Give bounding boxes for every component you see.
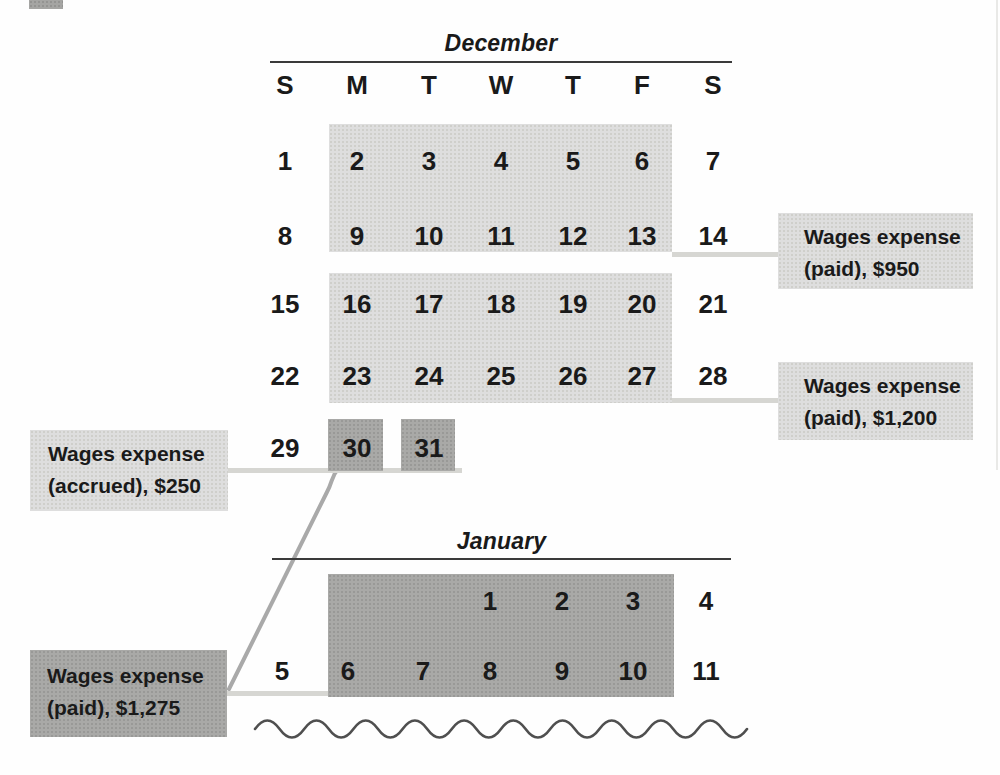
annotation-wages-paid-1275: Wages expense (paid), $1,275 [30,650,227,737]
december-day-3: 3 [393,145,465,177]
december-weekday-header-5: F [606,69,678,101]
january-day-9: 9 [526,655,598,687]
december-day-30: 30 [321,432,393,464]
december-day-29: 29 [249,432,321,464]
december-day-7: 7 [677,145,749,177]
wages-expense-calendar-figure: December SMTWTFS 12345678910111213141516… [0,0,1000,775]
december-day-5: 5 [537,145,609,177]
december-weekday-header-2: T [393,69,465,101]
december-day-6: 6 [606,145,678,177]
cropped-top-artifact [29,0,63,9]
december-day-23: 23 [321,360,393,392]
december-day-13: 13 [606,220,678,252]
december-day-15: 15 [249,288,321,320]
december-day-16: 16 [321,288,393,320]
december-day-25: 25 [465,360,537,392]
december-day-24: 24 [393,360,465,392]
december-weekday-header-1: M [321,69,393,101]
december-day-14: 14 [677,220,749,252]
december-day-4: 4 [465,145,537,177]
january-day-7: 7 [387,655,459,687]
december-day-27: 27 [606,360,678,392]
january-day-2: 2 [526,585,598,617]
january-day-1: 1 [454,585,526,617]
annotation-line: Wages expense [48,438,228,470]
connector-line-1200 [672,398,778,403]
annotation-line: Wages expense [47,660,227,692]
january-day-11: 11 [670,655,742,687]
january-day-4: 4 [670,585,742,617]
annotation-wages-accrued-250: Wages expense (accrued), $250 [30,430,228,511]
december-day-22: 22 [249,360,321,392]
december-title: December [270,30,732,57]
january-title-rule [272,558,731,560]
december-weekday-header-3: W [465,69,537,101]
annotation-line: (accrued), $250 [48,470,228,502]
december-day-12: 12 [537,220,609,252]
annotation-line: (paid), $1,200 [804,402,973,434]
wavy-continuation-line [253,714,750,744]
december-day-26: 26 [537,360,609,392]
annotation-wages-paid-1200: Wages expense (paid), $1,200 [778,362,973,440]
page-edge-line [996,0,998,470]
annotation-line: Wages expense [804,370,973,402]
december-day-17: 17 [393,288,465,320]
december-day-20: 20 [606,288,678,320]
december-day-18: 18 [465,288,537,320]
january-day-6: 6 [312,655,384,687]
january-title: January [272,528,731,555]
december-day-21: 21 [677,288,749,320]
december-day-1: 1 [249,145,321,177]
december-day-19: 19 [537,288,609,320]
january-day-10: 10 [597,655,669,687]
december-day-10: 10 [393,220,465,252]
december-day-28: 28 [677,360,749,392]
december-day-2: 2 [321,145,393,177]
january-day-3: 3 [597,585,669,617]
december-day-9: 9 [321,220,393,252]
annotation-line: Wages expense [804,221,973,253]
connector-line-950 [672,252,778,257]
january-day-8: 8 [454,655,526,687]
december-day-11: 11 [465,220,537,252]
december-weekday-header-0: S [249,69,321,101]
annotation-line: (paid), $950 [804,253,973,285]
december-day-8: 8 [249,220,321,252]
annotation-line: (paid), $1,275 [47,692,227,724]
december-day-31: 31 [393,432,465,464]
wave-path [255,721,747,738]
annotation-wages-paid-950: Wages expense (paid), $950 [778,213,973,289]
december-title-rule [270,61,732,63]
december-weekday-header-4: T [537,69,609,101]
connector-line-1275 [227,691,328,696]
december-weekday-header-6: S [677,69,749,101]
january-day-5: 5 [246,655,318,687]
